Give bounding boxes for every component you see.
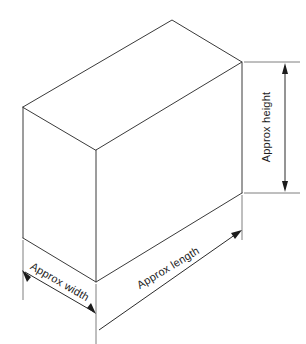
- box-diagram-svg: Approx height Approx length Approx wi: [0, 0, 306, 344]
- height-label: Approx height: [260, 92, 272, 162]
- length-arrow-right: [231, 230, 242, 239]
- width-arrow-right: [87, 303, 96, 314]
- box-shape: [23, 20, 242, 282]
- height-dimension-group: Approx height: [244, 62, 300, 193]
- height-arrow-bottom: [282, 181, 288, 192]
- height-arrow-top: [282, 63, 288, 74]
- dimension-diagram: Approx height Approx length Approx wi: [0, 0, 306, 344]
